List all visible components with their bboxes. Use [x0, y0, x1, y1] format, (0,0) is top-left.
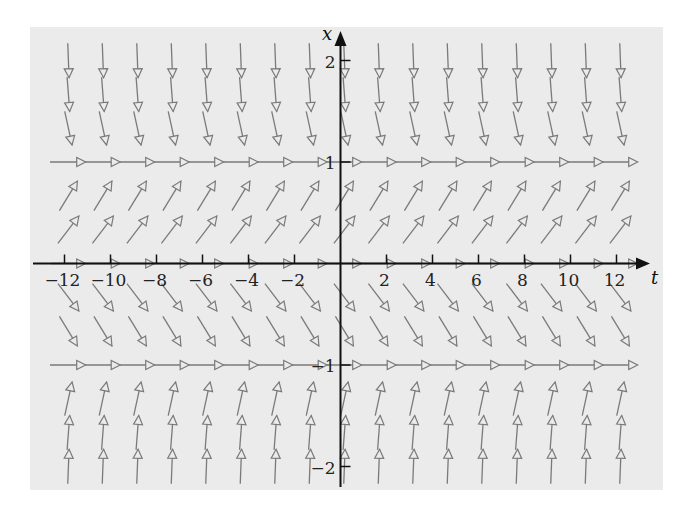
field-arrow-icon [168, 449, 177, 483]
field-arrow-icon [368, 216, 389, 243]
field-arrow-icon [610, 216, 631, 243]
field-arrow-icon [237, 415, 246, 449]
field-arrow-icon [266, 316, 284, 345]
field-arrow-icon [617, 77, 626, 111]
field-arrow-icon [404, 316, 422, 345]
field-arrow-icon [249, 361, 258, 370]
field-arrow-icon [215, 361, 224, 370]
field-arrow-icon [403, 216, 424, 243]
field-arrow-icon [237, 43, 246, 77]
field-arrow-icon [163, 181, 181, 210]
field-arrow-icon [548, 415, 557, 449]
field-arrow-icon [335, 316, 353, 345]
t-tick-label: −12 [45, 270, 81, 290]
field-arrow-icon [65, 111, 75, 145]
field-arrow-icon [375, 415, 384, 449]
field-arrow-icon [525, 361, 534, 370]
field-arrow-icon [271, 43, 280, 77]
field-arrow-icon [266, 181, 284, 210]
field-arrow-icon [410, 415, 419, 449]
field-arrow-icon [594, 158, 603, 167]
field-arrow-icon [284, 158, 293, 167]
field-arrow-icon [437, 284, 458, 311]
field-arrow-icon [335, 181, 353, 210]
field-arrow-icon [94, 316, 112, 345]
field-arrow-icon [265, 216, 286, 243]
t-tick-label: −2 [280, 270, 305, 290]
field-arrow-icon [547, 43, 556, 77]
field-arrow-icon [513, 449, 522, 483]
field-arrow-icon [582, 382, 592, 416]
field-arrow-icon [65, 382, 75, 416]
field-arrow-icon [594, 361, 603, 370]
t-tick-label: −8 [142, 270, 167, 290]
field-arrow-icon [230, 216, 251, 243]
field-arrow-icon [64, 449, 73, 483]
field-arrow-icon [473, 316, 491, 345]
field-arrow-icon [617, 382, 627, 416]
field-arrow-icon [341, 77, 350, 111]
field-arrow-icon [375, 382, 385, 416]
x-tick-label: 1 [325, 153, 336, 173]
field-arrow-icon [134, 111, 144, 145]
field-arrow-icon [491, 158, 500, 167]
field-arrow-icon [439, 316, 457, 345]
field-arrow-icon [611, 316, 629, 345]
field-arrow-icon [491, 361, 500, 370]
field-arrow-icon [127, 216, 148, 243]
field-arrow-icon [203, 415, 212, 449]
field-arrow-icon [437, 216, 458, 243]
field-arrow-icon [582, 111, 592, 145]
field-arrow-icon [168, 77, 177, 111]
field-arrow-icon [168, 111, 178, 145]
field-arrow-icon [375, 449, 384, 483]
field-arrow-icon [334, 284, 355, 311]
field-arrow-icon [272, 382, 282, 416]
field-arrow-icon [444, 111, 454, 145]
field-arrow-icon [64, 43, 73, 77]
field-arrow-icon [271, 449, 280, 483]
slope-field-chart: −12−10−8−6−4−224681012 21−1−2 t x [0, 0, 695, 514]
field-arrow-icon [232, 316, 250, 345]
field-arrow-icon [272, 77, 281, 111]
field-arrow-icon [202, 449, 211, 483]
field-arrow-icon [560, 361, 569, 370]
x-tick-label: 2 [325, 52, 336, 72]
field-arrow-icon [163, 316, 181, 345]
field-arrow-icon [513, 111, 523, 145]
field-arrow-icon [617, 415, 626, 449]
field-arrow-icon [542, 316, 560, 345]
field-arrow-icon [548, 382, 558, 416]
field-arrow-icon [444, 415, 453, 449]
field-arrow-icon [341, 415, 350, 449]
field-arrow-icon [215, 158, 224, 167]
field-arrow-icon [439, 181, 457, 210]
field-arrow-icon [444, 449, 453, 483]
field-arrow-icon [548, 111, 558, 145]
field-arrow-icon [370, 316, 388, 345]
field-arrow-icon [168, 382, 178, 416]
field-arrow-icon [99, 449, 108, 483]
field-arrow-icon [237, 382, 247, 416]
field-arrow-icon [133, 43, 142, 77]
field-arrow-icon [403, 284, 424, 311]
field-arrow-icon [611, 181, 629, 210]
field-arrow-icon [272, 111, 282, 145]
field-arrow-icon [444, 382, 454, 416]
field-arrow-icon [59, 181, 77, 210]
field-arrow-icon [575, 216, 596, 243]
t-tick-label: 2 [379, 270, 390, 290]
field-arrow-icon [508, 181, 526, 210]
field-arrow-icon [134, 77, 143, 111]
field-arrow-icon [375, 43, 384, 77]
field-arrow-icon [301, 181, 319, 210]
field-arrow-icon [387, 361, 396, 370]
field-arrow-icon [301, 316, 319, 345]
field-arrow-icon [334, 216, 355, 243]
field-arrow-icon [77, 158, 86, 167]
field-arrow-icon [65, 415, 74, 449]
field-arrow-icon [299, 216, 320, 243]
field-arrow-icon [616, 43, 625, 77]
t-tick-label: 12 [604, 270, 626, 290]
field-arrow-icon [284, 361, 293, 370]
